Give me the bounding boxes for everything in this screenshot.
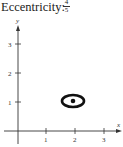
y-tick-1: 1 bbox=[8, 99, 12, 107]
x-tick-1: 1 bbox=[44, 136, 48, 144]
coordinate-plot: y x 1 2 3 1 2 3 bbox=[0, 0, 123, 147]
y-axis-label: y bbox=[15, 17, 20, 25]
y-tick-2: 2 bbox=[8, 70, 12, 78]
x-arrow-icon bbox=[116, 129, 122, 133]
x-tick-3: 3 bbox=[102, 136, 106, 144]
ellipse-center-dot bbox=[71, 99, 76, 104]
y-tick-3: 3 bbox=[8, 41, 12, 49]
y-arrow-icon bbox=[16, 25, 20, 31]
x-axis-label: x bbox=[116, 121, 121, 129]
x-tick-2: 2 bbox=[73, 136, 77, 144]
